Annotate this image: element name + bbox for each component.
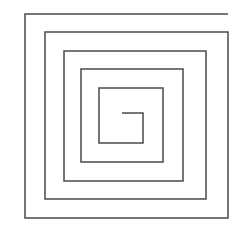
square-spiral-figure	[0, 0, 246, 239]
canvas-background	[0, 0, 246, 239]
drawing-canvas	[0, 0, 246, 239]
